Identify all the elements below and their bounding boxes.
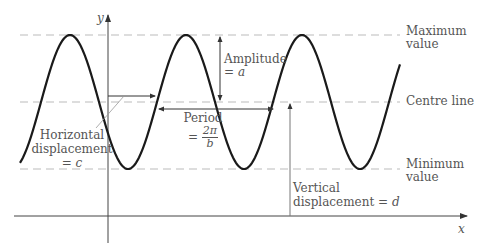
vertical-displacement-eq: = bbox=[378, 195, 388, 209]
vertical-displacement-line1: Vertical bbox=[293, 181, 340, 195]
horizontal-displacement-line2: displacement bbox=[31, 142, 112, 156]
amplitude-label: Amplitude = a bbox=[224, 53, 287, 79]
x-axis-label: x bbox=[458, 223, 465, 236]
horizontal-displacement-label: Horizontal displacement = c bbox=[28, 128, 116, 170]
period-label: Period = 2π b bbox=[172, 112, 234, 150]
period-eq: = bbox=[188, 130, 198, 144]
period-denominator: b bbox=[202, 138, 218, 150]
maximum-label-line1: Maximum bbox=[406, 24, 467, 38]
y-axis-label: y bbox=[97, 12, 104, 25]
centre-line-label: Centre line bbox=[406, 95, 474, 108]
minimum-value-label: Minimum value bbox=[406, 158, 464, 184]
period-text: Period bbox=[183, 111, 222, 125]
vertical-displacement-var: d bbox=[392, 195, 400, 209]
horizontal-displacement-var: c bbox=[76, 156, 83, 170]
sinusoid-diagram: y x Maximum value Centre line Minimum va… bbox=[0, 0, 479, 251]
minimum-label-line2: value bbox=[406, 170, 439, 184]
maximum-value-label: Maximum value bbox=[406, 25, 467, 51]
amplitude-eq: = bbox=[224, 65, 234, 79]
horizontal-displacement-pointer bbox=[96, 96, 124, 128]
horizontal-displacement-line1: Horizontal bbox=[40, 128, 104, 142]
horizontal-displacement-eq: = bbox=[62, 156, 72, 170]
vertical-displacement-label: Vertical displacement = d bbox=[293, 181, 400, 209]
maximum-label-line2: value bbox=[406, 37, 439, 51]
amplitude-var: a bbox=[238, 65, 245, 79]
minimum-label-line1: Minimum bbox=[406, 157, 464, 171]
vertical-displacement-line2: displacement bbox=[293, 195, 374, 209]
amplitude-text: Amplitude bbox=[224, 52, 287, 66]
period-fraction: 2π b bbox=[202, 125, 218, 150]
